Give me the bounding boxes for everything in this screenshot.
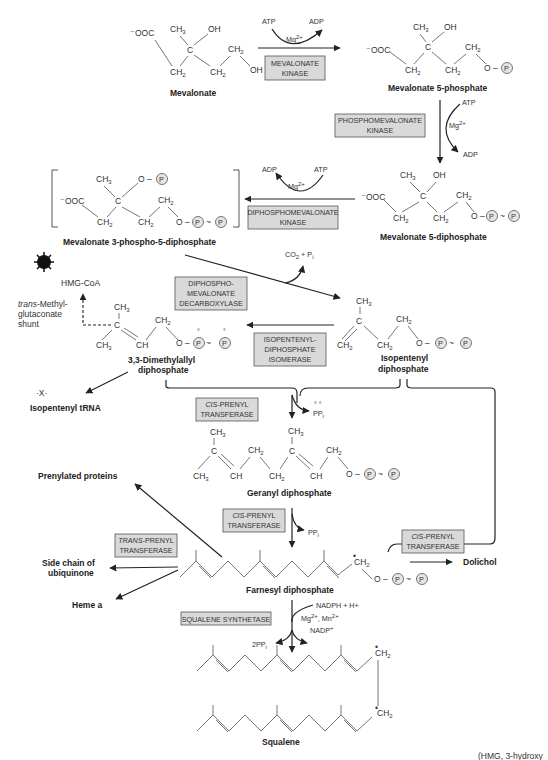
svg-text:CH2: CH2 xyxy=(396,314,412,325)
svg-text:C: C xyxy=(289,446,295,456)
svg-text:°: ° xyxy=(223,327,226,336)
svg-text:O –: O – xyxy=(374,574,388,584)
starburst-icon xyxy=(34,252,54,272)
svg-text:CH2: CH2 xyxy=(433,213,449,224)
svg-text:MEVALONATE: MEVALONATE xyxy=(271,59,319,68)
svg-text:P: P xyxy=(511,212,516,221)
mevalonate-3p5pp-label: Mevalonate 3-phospho-5-diphosphate xyxy=(63,237,216,247)
svg-text:CH3: CH3 xyxy=(288,426,304,437)
svg-text:PHOSPHOMEVALONATE: PHOSPHOMEVALONATE xyxy=(338,116,422,125)
svg-text:Dolichol: Dolichol xyxy=(463,557,497,567)
svg-text:P: P xyxy=(159,175,164,184)
mevalonate-5-diphosphate-structure: ⁻OOC CH3 OH C CH2 CH2 CH2 O – P ~ P Meva… xyxy=(361,170,520,242)
svg-text:ubiquinone: ubiquinone xyxy=(48,568,94,578)
svg-text:DIPHOSPHATE: DIPHOSPHATE xyxy=(265,345,316,354)
mevalonate-5-phosphate-label: Mevalonate 5-phosphate xyxy=(388,83,487,93)
svg-text:TRANSFERASE: TRANSFERASE xyxy=(200,410,253,419)
svg-text:CH2: CH2 xyxy=(377,340,393,351)
svg-text:Squalene: Squalene xyxy=(262,737,300,747)
svg-text:TRANSFERASE: TRANSFERASE xyxy=(227,521,280,530)
svg-text:CH2: CH2 xyxy=(375,648,391,659)
svg-text:P: P xyxy=(489,212,494,221)
svg-text:CO2 + Pi: CO2 + Pi xyxy=(285,250,313,260)
svg-text:ATP: ATP xyxy=(314,165,328,174)
step-mevalonate-kinase: ATP ADP Mg2+ MEVALONATE KINASE xyxy=(258,17,340,80)
ipp-connector-2 xyxy=(388,379,495,552)
svg-text:glutaconate: glutaconate xyxy=(18,309,62,319)
svg-text:diphosphate: diphosphate xyxy=(378,364,429,374)
svg-text:CH3: CH3 xyxy=(96,174,112,185)
svg-text:CH: CH xyxy=(136,340,148,350)
svg-text:3,3-Dimethylallyl: 3,3-Dimethylallyl xyxy=(128,355,195,365)
svg-text:CH2: CH2 xyxy=(97,217,113,228)
trans-prenyl-transferase: TRANS-PRENYL TRANSFERASE xyxy=(115,534,177,557)
cis-prenyl-transferase-3: CIS-PRENYL TRANSFERASE xyxy=(402,530,464,553)
svg-text:ISOMERASE: ISOMERASE xyxy=(269,355,312,364)
caption-fragment: (HMG, 3-hydroxy xyxy=(478,751,543,760)
mevalonate-structure: ⁻OOC CH3 OH C CH2 CH2 CH2 OH Mevalonate xyxy=(130,24,263,98)
isopentenyl-trna-branch: ·X· Isopentenyl tRNA xyxy=(30,372,128,413)
mevalonate-label: Mevalonate xyxy=(170,88,217,98)
svg-text:OH: OH xyxy=(250,65,263,75)
svg-text:diphosphate: diphosphate xyxy=(138,365,189,375)
step-decarboxylase: CO2 + Pi DIPHOSPHO- MEVALONATE DECARBOXY… xyxy=(175,250,340,310)
svg-text:OH: OH xyxy=(208,24,221,34)
svg-text:C: C xyxy=(420,191,426,201)
svg-text:CH2: CH2 xyxy=(228,44,244,55)
cis-prenyl-transferase-2: CIS-PRENYL TRANSFERASE xyxy=(223,509,285,532)
svg-text:⁻OOC: ⁻OOC xyxy=(366,45,390,55)
svg-text:ADP: ADP xyxy=(262,165,277,174)
svg-text:Prenylated proteins: Prenylated proteins xyxy=(38,471,118,481)
inhibition-icon: ·X· xyxy=(36,388,47,398)
svg-text:CH3: CH3 xyxy=(96,340,112,351)
svg-text:~: ~ xyxy=(500,211,505,221)
svg-text:O –: O – xyxy=(176,217,190,227)
svg-text:OH: OH xyxy=(433,170,446,180)
svg-text:TRANS-PRENYL: TRANS-PRENYL xyxy=(118,536,174,545)
svg-text:O –: O – xyxy=(484,63,498,73)
svg-text:CH2: CH2 xyxy=(405,65,421,76)
mevalonate-5-diphosphate-label: Mevalonate 5-diphosphate xyxy=(380,232,487,242)
svg-text:C: C xyxy=(187,45,193,55)
svg-text:shunt: shunt xyxy=(18,319,39,329)
svg-text:⁻OOC: ⁻OOC xyxy=(361,192,385,202)
step-isomerase: ISOPENTENYL- DIPHOSPHATE ISOMERASE xyxy=(247,325,334,366)
shunt-arrow xyxy=(83,294,111,325)
svg-text:SQUALENE SYNTHETASE: SQUALENE SYNTHETASE xyxy=(182,615,271,624)
svg-text:P: P xyxy=(195,218,200,227)
svg-text:P: P xyxy=(222,339,227,348)
svg-text:CH: CH xyxy=(230,471,242,481)
svg-text:P: P xyxy=(218,218,223,227)
svg-text:⁻OOC: ⁻OOC xyxy=(60,196,84,206)
svg-text:CH2: CH2 xyxy=(456,190,472,201)
svg-text:C: C xyxy=(425,42,431,52)
svg-text:CH2: CH2 xyxy=(170,67,186,78)
mevalonate-3-phospho-5-diphosphate-structure: ⁻OOC CH3 O – P C CH2 CH2 CH2 O – P ~ P M… xyxy=(52,170,239,247)
svg-text:ADP: ADP xyxy=(463,150,478,159)
svg-text:P: P xyxy=(438,339,443,348)
svg-text:PPi: PPi xyxy=(313,409,324,419)
svg-text:2PPi: 2PPi xyxy=(252,640,267,650)
svg-text:P: P xyxy=(391,470,396,479)
svg-text:Heme a: Heme a xyxy=(72,600,103,610)
ipp-connector-1 xyxy=(300,379,400,396)
cis-prenyl-transferase-1: CIS-PRENYL TRANSFERASE xyxy=(196,398,258,421)
svg-text:O –: O – xyxy=(138,174,152,184)
svg-text:Isopentenyl tRNA: Isopentenyl tRNA xyxy=(30,403,101,413)
isopentenyl-diphosphate-structure: CH3 C CH2 CH2 CH2 O – P ~ P Isopentenyl … xyxy=(337,296,472,374)
svg-text:CH3: CH3 xyxy=(400,170,416,181)
svg-text:CH3: CH3 xyxy=(413,22,429,33)
dmapp-structure: CH3 C CH2 CH3 CH O – P ~ P °° 3,3-Dimeth… xyxy=(96,302,231,375)
svg-text:NADP+: NADP+ xyxy=(310,625,334,635)
svg-text:Mg2+: Mg2+ xyxy=(288,181,305,191)
svg-text:DIPHOSPHO-: DIPHOSPHO- xyxy=(188,279,234,288)
svg-text:CH2: CH2 xyxy=(158,195,174,206)
svg-text:PPi: PPi xyxy=(308,528,319,538)
svg-text:MEVALONATE: MEVALONATE xyxy=(187,289,235,298)
svg-text:CH2: CH2 xyxy=(138,217,154,228)
svg-text:P: P xyxy=(367,470,372,479)
svg-text:CH3: CH3 xyxy=(210,427,226,438)
svg-text:ATP: ATP xyxy=(462,98,476,107)
svg-text:C: C xyxy=(115,196,121,206)
svg-text:O –: O – xyxy=(471,211,485,221)
